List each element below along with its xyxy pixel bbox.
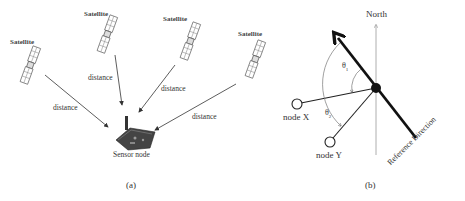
panel-b-angle-diagram: North θ1 θ2 node X node Y Reference Dire… (280, 0, 465, 201)
satellite-icon-3 (180, 22, 201, 60)
satellite-label-3: Satellite (163, 15, 187, 23)
satellite-label-4: Satellite (238, 30, 262, 38)
satellite-label-2: Satellite (84, 10, 108, 18)
panel-a-satellite-ranging: Satellite Satellite Satellite Satellite … (0, 0, 290, 201)
distance-label-4: distance (192, 112, 217, 121)
node-y-circle (325, 137, 335, 147)
panel-a-caption: (a) (126, 180, 136, 190)
satellite-icon-4 (245, 40, 266, 78)
satellite-label-1: Satellite (10, 38, 34, 46)
distance-label-3: distance (161, 84, 186, 93)
node-x-label: node X (283, 112, 309, 122)
theta1-subscript: 1 (346, 67, 349, 72)
theta2-subscript: 2 (329, 114, 332, 119)
distance-line-2 (115, 55, 122, 105)
distance-label-2: distance (88, 73, 113, 82)
satellite-icon-1 (20, 46, 41, 84)
north-label: North (366, 9, 387, 19)
center-node-dot (371, 83, 381, 93)
theta1-label: θ1 (342, 61, 348, 72)
distance-label-1: distance (53, 103, 78, 112)
sensor-node-icon (116, 116, 155, 150)
panel-b-graphics (280, 0, 465, 201)
sensor-node-label: Sensor node (113, 150, 150, 159)
theta1-arc (352, 69, 361, 92)
panel-b-caption: (b) (365, 180, 376, 190)
theta2-label: θ2 (325, 108, 331, 119)
distance-line-1 (45, 75, 108, 127)
node-y-label: node Y (316, 150, 342, 160)
node-x-circle (292, 99, 302, 109)
satellite-icon-2 (97, 15, 118, 53)
